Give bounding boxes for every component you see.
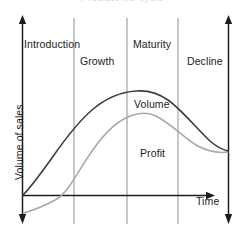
stage-label-maturity: Maturity [133,39,171,50]
product-life-cycle-chart: Product life cycle [0,0,244,233]
stage-label-introduction: Introduction [24,39,80,50]
x-axis-label: Time [196,196,219,207]
volume-curve [23,91,228,195]
stage-label-growth: Growth [80,56,114,67]
curve-label-profit: Profit [140,148,165,159]
right-axis [225,15,232,224]
stage-label-decline: Decline [187,56,223,67]
x-axis [23,192,216,199]
y-axis-label: Volume of sales [14,104,25,180]
curve-label-volume: Volume [134,99,170,110]
